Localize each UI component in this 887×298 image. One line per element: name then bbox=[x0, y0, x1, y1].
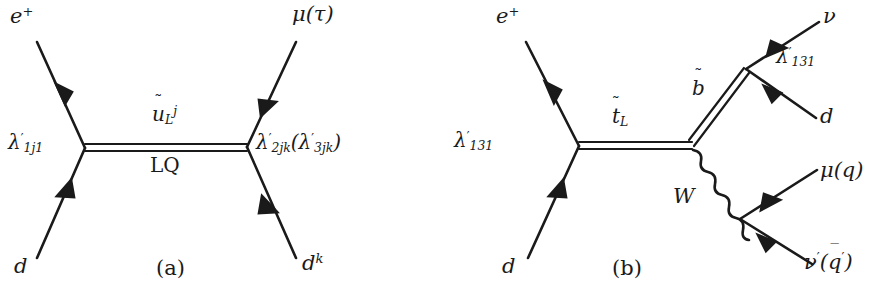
arrow-head-icon-down-quark-b bbox=[549, 180, 566, 197]
label-incoming-positron: e+ bbox=[10, 6, 33, 27]
label-incoming-down-quark-b: d bbox=[502, 256, 515, 277]
leg-outgoing-muon-q bbox=[740, 170, 817, 219]
label-outgoing-down-quark-k: dk bbox=[302, 253, 323, 274]
feynman-diagram-figure: e+ d μ(τ) dk λ′1j1 λ′2jk(λ′3jk) ˜uLj LQ … bbox=[0, 0, 887, 298]
caption-b: (b) bbox=[612, 258, 642, 279]
label-propagator-stop: ˜tL bbox=[612, 106, 628, 126]
leg-incoming-down-quark-b bbox=[528, 146, 579, 258]
leg-incoming-down-quark bbox=[37, 148, 85, 258]
arrow-head-icon-muon-tau bbox=[259, 100, 276, 116]
arrow-head-icon-down-quark-b2 bbox=[764, 86, 781, 102]
label-outgoing-neutrino: ν bbox=[823, 6, 836, 27]
label-outgoing-muon-tau: μ(τ) bbox=[292, 4, 334, 25]
label-propagator-sbottom: ˜b bbox=[692, 78, 705, 98]
diagram-a: e+ d μ(τ) dk λ′1j1 λ′2jk(λ′3jk) ˜uLj LQ … bbox=[0, 0, 444, 298]
label-vertex-right-coupling: λ′2jk(λ′3jk) bbox=[256, 132, 341, 152]
label-outgoing-down-quark-b: d bbox=[820, 106, 833, 127]
leg-outgoing-down-quark-k bbox=[247, 147, 296, 258]
label-outgoing-nu-prime: ν′(‾q′) bbox=[804, 252, 853, 273]
label-vertex-right-coupling-b: λ′131 bbox=[776, 46, 815, 66]
caption-a: (a) bbox=[156, 258, 185, 279]
label-propagator-leptoquark: LQ bbox=[150, 155, 180, 175]
diagram-a-lines bbox=[0, 0, 444, 298]
label-outgoing-muon-q: μ(q) bbox=[820, 160, 863, 181]
label-w-boson: W bbox=[673, 186, 695, 207]
diagram-b: e+ d λ′131 ˜tL ˜b λ′131 ν d W μ(q) ν′(‾q… bbox=[444, 0, 887, 298]
label-propagator-squark: ˜uLj bbox=[152, 104, 177, 124]
label-vertex-left-coupling-b: λ′131 bbox=[454, 130, 493, 150]
arrow-head-icon-positron-b bbox=[545, 82, 561, 103]
label-vertex-left-coupling: λ′1j1 bbox=[8, 132, 43, 152]
propagator-w-boson-wavy bbox=[693, 150, 749, 240]
arrow-head-icon-down-quark-k bbox=[259, 196, 277, 213]
label-incoming-positron-b: e+ bbox=[496, 6, 519, 27]
label-incoming-down-quark: d bbox=[14, 256, 27, 277]
arrow-head-icon-down-quark bbox=[57, 180, 74, 197]
arrow-head-icon-positron bbox=[56, 84, 72, 104]
arrow-head-icon-nu-prime bbox=[758, 235, 775, 251]
